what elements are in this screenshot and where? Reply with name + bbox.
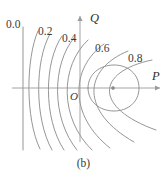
contour-value-label: 0.8: [128, 53, 143, 65]
contour-value-label: 0.4: [62, 33, 77, 45]
contour-figure: 0.00.20.40.60.8 P Q O (b): [0, 0, 167, 180]
contour-curve: [109, 60, 156, 130]
ellipse-center-dot-icon: [112, 87, 115, 90]
q-axis-arrow-icon: [77, 16, 82, 21]
figure-caption: (b): [0, 158, 167, 170]
contour-value-label: 0.2: [38, 26, 53, 38]
p-axis-label: P: [152, 70, 160, 83]
contour-curve-group: [23, 27, 156, 150]
contour-value-label: 0.6: [95, 43, 110, 55]
contour-plot-canvas: [0, 0, 167, 180]
contour-curve: [48, 36, 64, 150]
p-axis-arrow-icon: [155, 85, 160, 90]
origin-label: O: [70, 91, 78, 102]
contour-value-label: 0.0: [6, 19, 21, 31]
q-axis-label: Q: [90, 12, 99, 25]
center-point-group: [112, 87, 115, 90]
contour-curve: [39, 34, 52, 150]
